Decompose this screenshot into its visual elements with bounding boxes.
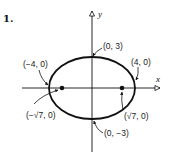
focus-left-dot — [60, 86, 65, 91]
leader-vertex-right — [136, 67, 138, 80]
label-vertex-right: (4, 0) — [131, 57, 151, 67]
problem-number: 1. — [3, 13, 13, 24]
leader-covertex-bottom — [94, 121, 103, 133]
label-focus-right: (√7, 0) — [124, 111, 149, 121]
label-vertex-left: (−4, 0) — [23, 59, 48, 69]
label-covertex-top: (0, 3) — [103, 41, 123, 51]
x-axis-label: x — [155, 74, 160, 84]
leader-vertex-left — [39, 70, 48, 85]
label-focus-left: (−√7, 0) — [26, 110, 56, 120]
ellipse-diagram: 1. x y (0, 3) (4, 0) (−4, 0) (−√7, 0) (√… — [0, 0, 176, 158]
focus-right-dot — [120, 86, 125, 91]
leader-focus-right — [122, 92, 123, 110]
leader-covertex-top — [93, 48, 102, 56]
y-axis-label: y — [97, 9, 102, 19]
label-covertex-bottom: (0, −3) — [104, 128, 129, 138]
